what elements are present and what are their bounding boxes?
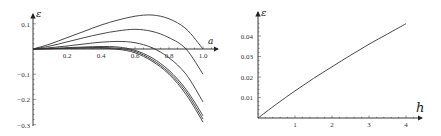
- y-tick-label: 0.1: [21, 21, 30, 29]
- y-tick-label: 0.01: [241, 94, 254, 102]
- right-x-tick-labels: 1234: [293, 121, 408, 129]
- curve-2: [33, 29, 203, 74]
- right-x-axis-title: h: [416, 100, 424, 115]
- y-tick-label: 0.02: [241, 74, 254, 82]
- right-curves: [258, 24, 406, 118]
- left-curves: [33, 15, 203, 122]
- curve-3: [33, 41, 203, 102]
- y-tick-label: −0.1: [17, 71, 30, 79]
- y-tick-label: −0.2: [17, 96, 30, 104]
- x-tick-label: 3: [367, 121, 371, 129]
- right-chart: 1234 0.010.020.030.04 ε h: [241, 7, 425, 129]
- y-tick-label: 0.03: [241, 53, 254, 61]
- left-chart: 0.20.40.60.81.0 0.1−0.1−0.2−0.3 ε a: [17, 8, 218, 130]
- right-y-tick-labels: 0.010.020.030.04: [241, 33, 254, 103]
- right-axis-ticks: [258, 24, 413, 118]
- x-tick-label: 4: [404, 121, 408, 129]
- y-tick-label: −0.3: [17, 122, 30, 130]
- x-tick-label: 0.4: [97, 52, 106, 60]
- y-tick-label: 0.04: [241, 33, 254, 41]
- left-x-axis-title: a: [208, 36, 213, 46]
- left-y-tick-labels: 0.1−0.1−0.2−0.3: [17, 21, 30, 130]
- left-axis-ticks: [33, 24, 212, 125]
- figure: 0.20.40.60.81.0 0.1−0.1−0.2−0.3 ε a 1234…: [0, 0, 441, 136]
- x-tick-label: 2: [330, 121, 334, 129]
- left-y-axis-title: ε: [36, 8, 41, 19]
- x-tick-label: 0.2: [63, 52, 72, 60]
- x-tick-label: 1.0: [199, 52, 208, 60]
- x-tick-label: 1: [293, 121, 297, 129]
- curve-6: [33, 48, 203, 122]
- curve-1: [258, 24, 406, 118]
- right-y-axis-title: ε: [261, 7, 266, 18]
